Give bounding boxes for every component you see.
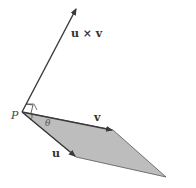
v-label: v (93, 111, 101, 124)
cross-product-diagram: u × v v u P θ (0, 0, 196, 188)
u-label: u (52, 147, 60, 160)
point-p-label: P (10, 109, 19, 122)
theta-label: θ (45, 118, 51, 128)
cross-product-label: u × v (71, 27, 103, 40)
cross-product-vector (22, 9, 76, 112)
right-angle-mark (26, 104, 33, 113)
